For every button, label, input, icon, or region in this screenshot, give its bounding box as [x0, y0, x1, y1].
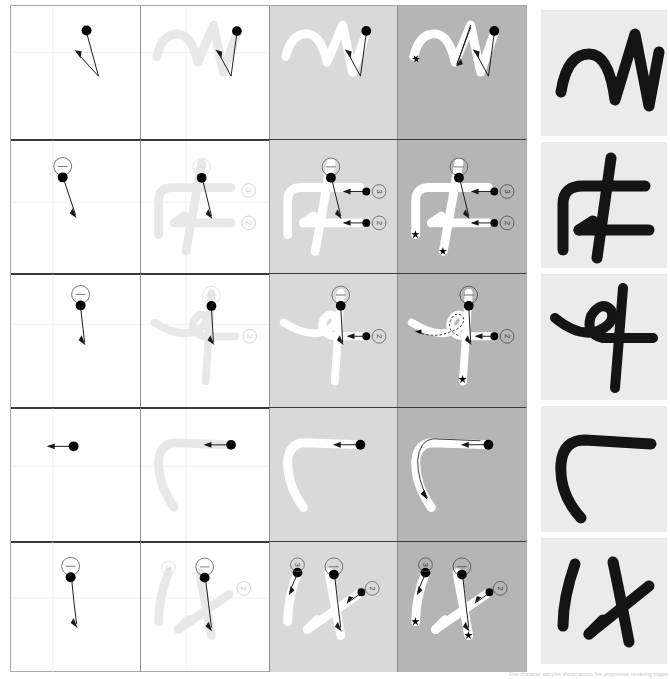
- order-ring-2: 2: [494, 581, 508, 595]
- cell-r2-c3-light[interactable]: 3 2: [269, 140, 398, 273]
- order-ring-2: 2: [500, 329, 514, 343]
- cell-r3-c3-light[interactable]: 2: [269, 274, 398, 407]
- order-ring-2: 2: [372, 216, 386, 230]
- cell-r2-c1-points[interactable]: [11, 140, 140, 273]
- target-glyph-2[interactable]: [541, 142, 667, 268]
- svg-text:2: 2: [503, 221, 512, 225]
- svg-text:2: 2: [240, 586, 249, 590]
- order-ring-2: 2: [243, 329, 257, 343]
- stroke-order-figure: 3 2: [0, 0, 670, 679]
- cell-r5-c1-points[interactable]: [11, 542, 140, 672]
- order-ring-2: 2: [365, 581, 379, 595]
- cell-r4-c2-ghost[interactable]: [140, 408, 268, 541]
- target-glyph-1[interactable]: [541, 10, 667, 136]
- svg-text:2: 2: [244, 221, 253, 225]
- svg-text:2: 2: [374, 221, 383, 225]
- target-glyph-5[interactable]: [541, 538, 667, 664]
- cell-r4-c1-points[interactable]: [11, 408, 140, 541]
- cell-r3-c4-dark[interactable]: 2: [397, 274, 526, 407]
- svg-text:3: 3: [503, 189, 512, 194]
- svg-text:2: 2: [503, 334, 512, 338]
- target-glyph-3[interactable]: [541, 274, 667, 400]
- cell-r4-c4-dark[interactable]: [397, 408, 526, 541]
- sample-row-1: [11, 6, 526, 139]
- cell-r1-c2-ghost[interactable]: [140, 6, 268, 139]
- svg-text:2: 2: [374, 334, 383, 338]
- svg-text:2: 2: [496, 586, 505, 590]
- order-ring-3: 3: [500, 185, 514, 199]
- svg-text:3: 3: [164, 566, 173, 570]
- cell-r4-c3-light[interactable]: [269, 408, 398, 541]
- cell-r5-c4-dark[interactable]: 3 2: [397, 542, 526, 672]
- svg-text:3: 3: [244, 188, 253, 192]
- svg-text:3: 3: [374, 189, 383, 194]
- sample-row-2: 3 2: [11, 140, 526, 273]
- order-ring-3: 3: [372, 185, 386, 199]
- order-ring-2: 2: [372, 329, 386, 343]
- cell-r2-c4-dark[interactable]: 3 2: [397, 140, 526, 273]
- order-ring-3: 3: [242, 184, 256, 198]
- sample-row-4: [11, 408, 526, 541]
- svg-text:2: 2: [245, 334, 254, 338]
- cell-r3-c2-ghost[interactable]: 2: [140, 274, 268, 407]
- sample-row-5: 3 2: [11, 542, 526, 672]
- figure-footnote: Five character samples shown across five…: [509, 671, 668, 677]
- cell-r2-c2-ghost[interactable]: 3 2: [140, 140, 268, 273]
- cell-r3-c1-points[interactable]: [11, 274, 140, 407]
- order-ring-2: 2: [500, 216, 514, 230]
- svg-text:3: 3: [421, 563, 430, 568]
- stroke-stage-grid: 3 2: [10, 5, 527, 672]
- sample-row-3: 2 2: [11, 274, 526, 407]
- svg-text:3: 3: [293, 563, 302, 568]
- target-glyph-4[interactable]: [541, 406, 667, 532]
- cell-r5-c3-light[interactable]: 3 2: [269, 542, 398, 672]
- order-ring-2: 2: [242, 216, 256, 230]
- cell-r1-c4-dark[interactable]: [397, 6, 526, 139]
- cell-r1-c1-points[interactable]: [11, 6, 140, 139]
- cell-r1-c3-light[interactable]: [269, 6, 398, 139]
- cell-r5-c2-ghost[interactable]: 3 2: [140, 542, 268, 672]
- svg-text:2: 2: [367, 586, 376, 590]
